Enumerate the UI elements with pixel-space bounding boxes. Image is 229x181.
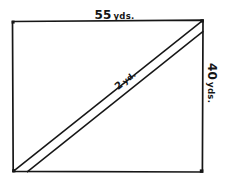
width-unit: yds. bbox=[113, 11, 134, 21]
figure-drawing bbox=[0, 0, 229, 181]
height-unit: yds. bbox=[206, 82, 216, 103]
band-line-lower bbox=[28, 32, 203, 172]
height-value: 40 bbox=[205, 63, 219, 80]
band-line-upper bbox=[13, 21, 202, 172]
width-label: 55yds. bbox=[0, 6, 229, 22]
geometry-figure: 55yds. 40yds. 2yd. bbox=[0, 0, 229, 181]
width-value: 55 bbox=[94, 8, 111, 22]
height-label: 40yds. bbox=[205, 63, 221, 103]
